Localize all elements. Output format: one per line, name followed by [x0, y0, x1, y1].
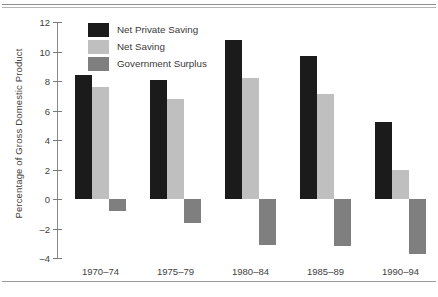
- top-rule-line-lower: [2, 7, 436, 8]
- top-rule-line-upper: [2, 4, 436, 5]
- legend-label-net-saving: Net Saving: [117, 41, 165, 52]
- bar: [334, 199, 351, 246]
- y-tick-label: 4: [45, 135, 50, 146]
- bar: [409, 199, 426, 254]
- y-tick-label: 0: [45, 194, 50, 205]
- bar: [392, 170, 409, 200]
- bar: [184, 199, 201, 223]
- legend-swatch-government-surplus: [88, 57, 109, 71]
- y-tick-mark: [53, 52, 62, 53]
- bar: [167, 99, 184, 199]
- x-axis-label: 1990–94: [375, 266, 426, 277]
- y-tick-mark: [53, 229, 62, 230]
- bar: [259, 199, 276, 245]
- bar: [375, 122, 392, 199]
- y-tick-label: –4: [39, 253, 50, 264]
- legend-swatch-net-private-saving: [88, 23, 109, 37]
- legend-swatch-net-saving: [88, 40, 109, 54]
- bar: [150, 80, 167, 199]
- bar: [109, 199, 126, 211]
- y-tick-label: 6: [45, 105, 50, 116]
- y-tick-label: 8: [45, 76, 50, 87]
- x-axis-label: 1975–79: [150, 266, 201, 277]
- y-tick-label: –2: [39, 223, 50, 234]
- y-axis-title: Percentage of Gross Domestic Product: [13, 19, 24, 249]
- bar: [300, 56, 317, 199]
- x-axis-label: 1980–84: [225, 266, 276, 277]
- y-tick-mark: [53, 140, 62, 141]
- x-axis-label: 1970–74: [75, 266, 126, 277]
- legend-entry-net-saving: Net Saving: [88, 39, 268, 55]
- y-tick-mark: [53, 111, 62, 112]
- bar: [242, 78, 259, 199]
- legend-entry-net-private-saving: Net Private Saving: [88, 22, 268, 38]
- y-tick-mark: [53, 81, 62, 82]
- bar: [317, 94, 334, 199]
- legend-label-government-surplus: Government Surplus: [117, 58, 207, 69]
- bar-group: 1990–94: [375, 22, 426, 258]
- bottom-rule: [2, 281, 436, 282]
- legend-entry-government-surplus: Government Surplus: [88, 56, 268, 72]
- y-tick-label: 10: [39, 46, 50, 57]
- source-note: [4, 288, 304, 296]
- y-tick-mark: [53, 258, 62, 259]
- chart-legend: Net Private Saving Net Saving Government…: [88, 22, 268, 73]
- y-tick-label: 12: [39, 17, 50, 28]
- y-tick-mark: [53, 199, 62, 200]
- y-tick-mark: [53, 170, 62, 171]
- bar-group: 1985–89: [300, 22, 351, 258]
- bar: [75, 75, 92, 199]
- legend-label-net-private-saving: Net Private Saving: [117, 24, 198, 35]
- y-tick-mark: [53, 22, 62, 23]
- x-axis-label: 1985–89: [300, 266, 351, 277]
- bar: [92, 87, 109, 199]
- top-double-rule: [2, 4, 436, 10]
- y-tick-label: 2: [45, 164, 50, 175]
- chart-figure: Percentage of Gross Domestic Product 121…: [0, 0, 438, 297]
